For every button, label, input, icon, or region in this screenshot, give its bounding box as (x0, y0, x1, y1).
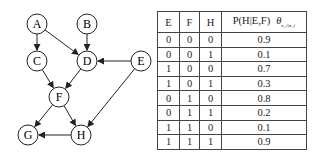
header-f: F (180, 12, 200, 33)
table-cell: 0 (180, 47, 200, 62)
table-cell: 1 (200, 47, 222, 62)
edge-F-H (64, 106, 75, 126)
table-row: 1110.9 (158, 135, 307, 150)
node-label-E: E (137, 54, 144, 68)
node-label-C: C (33, 54, 41, 68)
table-header-row: E F H P(H|E,F)θx_i|π_i (158, 12, 307, 33)
header-probability: P(H|E,F)θx_i|π_i (222, 12, 307, 33)
table-cell: 0 (180, 33, 200, 48)
table-cell: 0.3 (222, 76, 307, 91)
table-cell: 0 (158, 91, 180, 106)
table-cell: 0.9 (222, 33, 307, 48)
edge-D-F (66, 69, 81, 88)
node-label-D: D (83, 54, 92, 68)
table-row: 0110.2 (158, 105, 307, 120)
table-cell: 0.1 (222, 47, 307, 62)
edge-E-H (88, 69, 135, 127)
table-cell: 0 (180, 62, 200, 77)
table-cell: 1 (200, 135, 222, 150)
node-label-F: F (56, 90, 63, 104)
edge-C-F (42, 70, 53, 88)
table-cell: 1 (180, 91, 200, 106)
header-h: H (200, 12, 222, 33)
conditional-probability-table: E F H P(H|E,F)θx_i|π_i 0000.90010.11000.… (157, 11, 307, 150)
table-cell: 1 (180, 135, 200, 150)
table-cell: 0.9 (222, 135, 307, 150)
theta-symbol: θx_i|π_i (276, 15, 295, 26)
table-row: 1000.7 (158, 62, 307, 77)
table-cell: 0.7 (222, 62, 307, 77)
table-cell: 0 (200, 33, 222, 48)
table-cell: 1 (158, 135, 180, 150)
table-row: 1100.1 (158, 120, 307, 135)
header-e: E (158, 12, 180, 33)
edge-F-G (35, 105, 53, 127)
probability-label: P(H|E,F) (233, 15, 270, 26)
table-cell: 0.1 (222, 120, 307, 135)
table-cell: 1 (200, 76, 222, 91)
node-label-B: B (83, 17, 91, 31)
table-cell: 0 (158, 105, 180, 120)
table-cell: 0.8 (222, 91, 307, 106)
table-cell: 0.2 (222, 105, 307, 120)
table-row: 0100.8 (158, 91, 307, 106)
table-cell: 0 (200, 62, 222, 77)
node-label-H: H (77, 128, 86, 142)
table-row: 0000.9 (158, 33, 307, 48)
table-cell: 0 (180, 76, 200, 91)
table-cell: 1 (158, 120, 180, 135)
node-label-G: G (24, 128, 33, 142)
edge-A-D (45, 30, 78, 55)
table-cell: 1 (158, 76, 180, 91)
table-cell: 0 (158, 33, 180, 48)
table-cell: 1 (158, 62, 180, 77)
bayesian-network-graph: ABCDEFGH (0, 0, 160, 158)
table-row: 0010.1 (158, 47, 307, 62)
table-row: 1010.3 (158, 76, 307, 91)
table-cell: 0 (158, 47, 180, 62)
table-cell: 1 (180, 105, 200, 120)
table-cell: 1 (200, 105, 222, 120)
node-label-A: A (33, 17, 42, 31)
table-cell: 0 (200, 91, 222, 106)
table-cell: 0 (200, 120, 222, 135)
table-cell: 1 (180, 120, 200, 135)
